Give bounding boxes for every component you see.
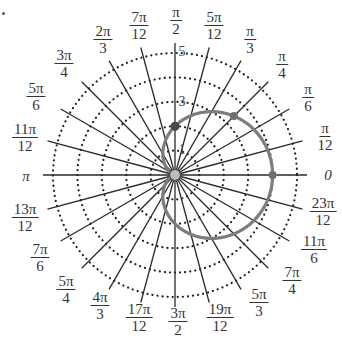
angle-label-2pi-3: 2π3 <box>93 24 112 56</box>
grid-ray <box>141 175 175 303</box>
numerator: 3π <box>168 306 187 322</box>
point-theta-pi-2 <box>171 122 180 131</box>
denominator: 12 <box>131 26 146 42</box>
point-theta-0 <box>269 171 277 179</box>
radial-label-1: 1 <box>179 142 186 158</box>
numerator: 5π <box>26 81 45 97</box>
angle-label-7pi-4: 7π4 <box>282 265 301 297</box>
numerator: 17π <box>126 302 153 318</box>
angle-label-3pi-4: 3π4 <box>54 48 73 80</box>
denominator: 2 <box>172 21 180 37</box>
denominator: 12 <box>206 26 221 42</box>
denominator: 3 <box>96 306 104 322</box>
angle-label-4pi-3: 4π3 <box>90 290 109 322</box>
numerator: 19π <box>207 302 234 318</box>
radial-label-5: 5 <box>179 44 186 60</box>
angle-label-19pi-12: 19π12 <box>207 302 234 334</box>
numerator: π <box>170 5 182 21</box>
pole-origin <box>170 170 181 181</box>
grid-ray <box>48 175 176 209</box>
numerator: π <box>244 24 256 40</box>
denominator: 12 <box>18 138 33 154</box>
angle-label-pi-3: π3 <box>244 24 256 56</box>
grid-ray <box>141 48 175 176</box>
numerator: π <box>302 82 314 98</box>
stray-mark <box>2 12 5 15</box>
angle-label-0: 0 <box>324 168 332 183</box>
angle-label-5pi-6: 5π6 <box>26 81 45 113</box>
denominator: 12 <box>212 318 227 334</box>
denominator: 4 <box>288 281 296 297</box>
denominator: 6 <box>36 258 44 274</box>
grid-ray <box>48 141 176 175</box>
angle-label-pi-4: π4 <box>276 49 288 81</box>
grid-ray <box>175 141 303 175</box>
point-theta-pi-4 <box>230 112 238 120</box>
angle-label-pi: π <box>22 169 30 184</box>
angle-label-3pi-2: 3π2 <box>168 306 187 338</box>
numerator: 5π <box>56 274 75 290</box>
numerator: 5π <box>204 10 223 26</box>
numerator: 7π <box>129 10 148 26</box>
denominator: 6 <box>304 98 312 114</box>
numerator: π <box>276 49 288 65</box>
denominator: 12 <box>17 218 32 234</box>
angle-label-11pi-6: 11π6 <box>301 234 327 266</box>
denominator: 6 <box>32 97 40 113</box>
angle-label-7pi-6: 7π6 <box>30 242 49 274</box>
angle-label-5pi-4: 5π4 <box>56 274 75 306</box>
denominator: 4 <box>60 64 68 80</box>
numerator: 5π <box>249 287 268 303</box>
angle-label-11pi-12: 11π12 <box>12 122 38 154</box>
angle-label-pi-6: π6 <box>302 82 314 114</box>
angle-label-5pi-12: 5π12 <box>204 10 223 42</box>
numerator: 11π <box>301 234 327 250</box>
angle-label-13pi-12: 13π12 <box>12 202 39 234</box>
denominator: 3 <box>255 303 263 319</box>
angle-label-pi-12: π12 <box>318 121 333 153</box>
denominator: 4 <box>278 65 286 81</box>
denominator: 3 <box>246 40 254 56</box>
numerator: 13π <box>12 202 39 218</box>
denominator: 12 <box>131 318 146 334</box>
numerator: 2π <box>93 24 112 40</box>
denominator: 12 <box>315 212 330 228</box>
denominator: 12 <box>318 137 333 153</box>
denominator: 6 <box>310 250 318 266</box>
angle-label-pi-2: π2 <box>170 5 182 37</box>
numerator: 23π <box>310 196 337 212</box>
denominator: 4 <box>62 290 70 306</box>
angle-label-7pi-12: 7π12 <box>129 10 148 42</box>
numerator: 11π <box>12 122 38 138</box>
numerator: 3π <box>54 48 73 64</box>
numerator: π <box>319 121 331 137</box>
angle-label-23pi-12: 23π12 <box>310 196 337 228</box>
denominator: 3 <box>99 40 107 56</box>
angle-label-5pi-3: 5π3 <box>249 287 268 319</box>
denominator: 2 <box>174 322 182 338</box>
numerator: 4π <box>90 290 109 306</box>
numerator: 7π <box>282 265 301 281</box>
grid-ray <box>175 175 303 209</box>
angle-label-17pi-12: 17π12 <box>126 302 153 334</box>
radial-label-3: 3 <box>179 94 186 110</box>
numerator: 7π <box>30 242 49 258</box>
